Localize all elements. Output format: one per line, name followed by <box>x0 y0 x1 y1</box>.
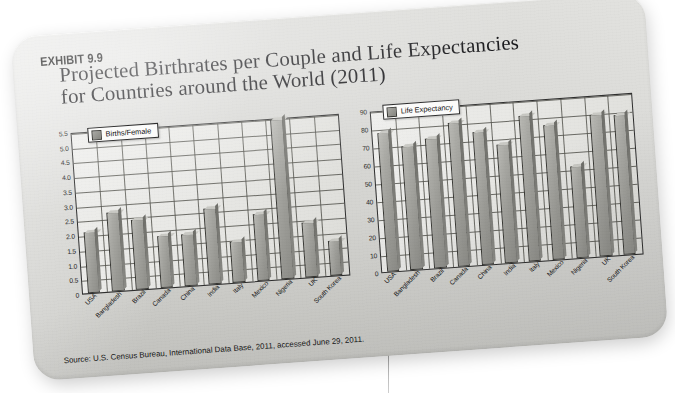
bar <box>181 233 197 286</box>
y-tick-label: 60 <box>363 162 371 169</box>
bar <box>448 122 471 267</box>
legend-label-births: Births/Female <box>105 126 151 138</box>
legend-swatch-icon <box>386 106 397 117</box>
bar <box>270 119 294 279</box>
legend-swatch-icon <box>91 129 102 140</box>
x-tick-label: UK <box>601 255 612 266</box>
y-tick-label: 10 <box>370 252 378 259</box>
bar <box>157 235 173 288</box>
bar <box>327 240 342 276</box>
card-surface: EXHIBIT 9.9 Projected Birthrates per Cou… <box>10 0 668 381</box>
x-tick-label: Canada <box>448 265 469 286</box>
y-tick-label: 2.5 <box>65 218 74 226</box>
x-tick-label: Brazil <box>429 267 445 283</box>
bar <box>543 124 565 260</box>
bar <box>570 165 589 258</box>
y-tick-label: 1.0 <box>68 262 77 270</box>
bar <box>402 145 423 270</box>
bars-births <box>72 115 350 294</box>
y-tick-label: 70 <box>362 144 370 151</box>
x-tick-label: India <box>206 283 221 298</box>
x-tick-label: Nigeria <box>569 257 588 276</box>
x-tick-label: Italy <box>232 281 245 294</box>
exhibit-card: EXHIBIT 9.9 Projected Birthrates per Cou… <box>10 0 668 381</box>
x-tick-label: Mexico <box>545 258 564 277</box>
bar <box>106 212 124 291</box>
y-tick-label: 4.0 <box>62 174 71 182</box>
x-tick-label: Canada <box>151 287 172 308</box>
source-note: Source: U.S. Census Bureau, Internationa… <box>63 335 364 366</box>
y-tick-label: 4.5 <box>61 159 70 167</box>
bar <box>131 219 149 290</box>
x-tick-label: Nigeria <box>274 278 293 297</box>
chart-births-per-female: 00.51.01.52.02.53.03.54.04.55.05.5 USABa… <box>43 108 357 335</box>
x-tick-label: Brazil <box>131 288 147 304</box>
bar <box>590 114 612 257</box>
bar <box>203 208 221 284</box>
y-tick-label: 80 <box>361 126 369 133</box>
y-tick-label: 3.0 <box>64 203 73 211</box>
bars-life <box>371 94 643 272</box>
bar <box>253 213 270 281</box>
plot-area-life <box>370 93 644 273</box>
bar <box>230 241 245 283</box>
bar <box>425 138 447 268</box>
x-tick-label: USA <box>84 292 98 306</box>
bar <box>497 144 518 264</box>
chart-life-expectancy: 0102030405060708090 USABangladeshBrazilC… <box>348 87 650 313</box>
bar <box>83 231 100 293</box>
y-tick-label: 2.0 <box>66 233 75 241</box>
y-tick-label: 50 <box>365 180 373 187</box>
x-tick-label: China <box>476 264 493 281</box>
y-tick-label: 20 <box>368 234 376 241</box>
x-tick-label: UK <box>307 276 318 287</box>
bar <box>377 133 399 272</box>
x-tick-label: Italy <box>527 260 540 273</box>
x-tick-label: China <box>179 285 196 302</box>
x-tick-label: USA <box>383 270 397 284</box>
y-tick-label: 0.5 <box>69 277 78 285</box>
x-tick-label: Bangladesh <box>94 290 123 319</box>
legend-label-life: Life Expectancy <box>400 103 453 116</box>
y-tick-label: 90 <box>359 108 367 115</box>
x-tick-label: Bangladesh <box>392 269 421 298</box>
bar <box>302 222 319 278</box>
x-tick-label: Mexico <box>250 280 269 299</box>
y-tick-label: 1.5 <box>67 247 76 255</box>
y-tick-label: 40 <box>366 198 374 205</box>
y-tick-label: 5.5 <box>59 130 68 138</box>
y-tick-label: 30 <box>367 216 375 223</box>
y-tick-label: 5.0 <box>60 145 69 153</box>
bar <box>472 131 494 265</box>
x-tick-label: India <box>502 262 517 277</box>
bar <box>614 114 636 255</box>
y-tick-label: 3.5 <box>63 189 72 197</box>
bar <box>519 115 542 261</box>
